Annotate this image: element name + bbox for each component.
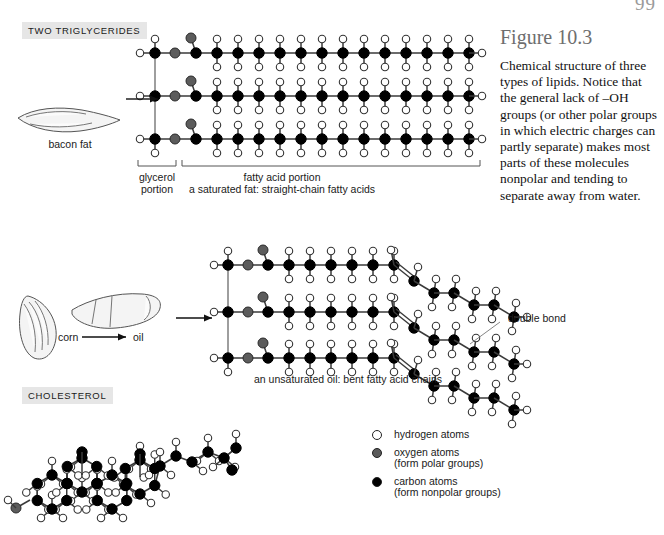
fatty-acid-portion-brace bbox=[182, 160, 480, 166]
corn-illustration bbox=[20, 296, 57, 359]
triglyceride-structure-diagram bbox=[0, 0, 664, 535]
bacon-fat-illustration bbox=[18, 108, 120, 132]
glycerol-portion-brace bbox=[138, 160, 176, 166]
legend-oxygen-sublabel: (form polar groups) bbox=[394, 458, 501, 470]
label-corn: corn bbox=[58, 331, 78, 343]
label-fatty-acid-portion: fatty acid portion bbox=[243, 171, 320, 183]
legend-item-hydrogen: hydrogen atoms bbox=[372, 429, 501, 441]
atom-legend: hydrogen atoms oxygen atoms (form polar … bbox=[372, 429, 501, 505]
legend-hydrogen-label: hydrogen atoms bbox=[394, 428, 469, 440]
oil-to-molecule-arrow bbox=[176, 315, 212, 322]
hydrogen-atom-circle-icon bbox=[372, 430, 382, 440]
legend-item-carbon: carbon atoms (form nonpolar groups) bbox=[372, 476, 501, 499]
legend-item-oxygen: oxygen atoms (form polar groups) bbox=[372, 447, 501, 470]
corn-to-oil-arrow bbox=[82, 334, 126, 341]
label-saturated-fat-caption: a saturated fat: straight-chain fatty ac… bbox=[189, 183, 375, 195]
oxygen-atom-circle-icon bbox=[372, 448, 382, 458]
label-glycerol-portion-line2: portion bbox=[141, 183, 173, 195]
label-double-bond: double bond bbox=[508, 312, 566, 324]
legend-carbon-sublabel: (form nonpolar groups) bbox=[394, 487, 501, 499]
carbon-atom-circle-icon bbox=[372, 477, 382, 487]
label-oil: oil bbox=[133, 331, 144, 343]
label-bacon-fat: bacon fat bbox=[48, 138, 91, 150]
oil-bottle-illustration bbox=[72, 294, 160, 329]
figure-page: 99 TWO TRIGLYCERIDES CHOLESTEROL Figure … bbox=[0, 0, 664, 535]
label-glycerol-portion-line1: glycerol bbox=[139, 171, 175, 183]
label-unsaturated-oil-caption: an unsaturated oil: bent fatty acid chai… bbox=[254, 373, 442, 385]
